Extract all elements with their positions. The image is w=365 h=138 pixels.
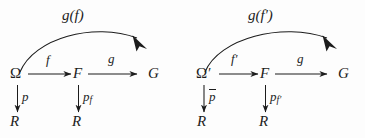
left-node-R-middle: R	[72, 114, 81, 129]
right-node-F: F	[260, 66, 269, 81]
right-node-R-middle: R	[259, 114, 268, 129]
commutative-diagram-figure: g(f) Ω F G f g p pf R R g(f′) Ω′ F G f′ …	[0, 0, 365, 138]
left-node-F: F	[73, 66, 82, 81]
left-arrow-label-p-f: pf	[83, 90, 92, 106]
right-label-p-base: p	[209, 89, 216, 104]
right-arrow-label-f-prime: f′	[231, 52, 237, 65]
left-node-omega: Ω	[10, 66, 21, 81]
left-node-R-left: R	[10, 114, 19, 129]
macron-bar	[209, 89, 215, 90]
right-node-omega-prime-mark: ′	[207, 65, 210, 81]
right-node-omega-base: Ω	[196, 65, 207, 81]
right-arrow-label-g: g	[297, 52, 304, 65]
right-label-p-bar-wrap: p	[209, 90, 216, 103]
right-arrow-label-p-f-prime: pf′	[270, 90, 281, 106]
right-node-R-left: R	[197, 114, 206, 129]
left-arrow-label-f: f	[46, 53, 50, 66]
left-arrow-label-g: g	[108, 52, 115, 65]
right-curve-label-g-of-f-prime: g(f′)	[248, 8, 273, 23]
right-node-omega-prime: Ω′	[196, 66, 210, 81]
left-node-G: G	[148, 66, 159, 81]
left-curved-arrow-g-of-f	[20, 32, 147, 72]
right-label-pf-subscript-prime: ′	[279, 95, 281, 105]
left-arrow-label-p: p	[22, 90, 29, 103]
right-curve-base: g(f	[248, 7, 265, 23]
diagram-vector-layer	[0, 0, 365, 138]
left-label-p-subscript: f	[90, 95, 93, 105]
right-node-G: G	[338, 66, 349, 81]
right-curved-arrow-g-of-f-prime	[205, 32, 337, 72]
right-label-f-prime-mark: ′	[235, 52, 238, 66]
right-curve-close: )	[268, 7, 273, 23]
left-curve-label-g-of-f: g(f)	[62, 8, 84, 23]
right-arrow-label-p-bar: p	[209, 90, 216, 103]
